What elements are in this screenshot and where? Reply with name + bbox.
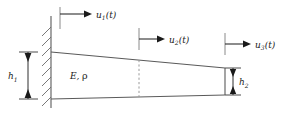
dof3-argument: (t) xyxy=(265,40,276,50)
h2-subscript: 2 xyxy=(244,82,249,89)
figure-canvas: u1(t) u2(t) u3(t) xyxy=(0,0,290,118)
h2-arrowhead-bottom xyxy=(230,86,236,94)
h1-arrowhead-bottom xyxy=(25,89,32,98)
h2-dimension: h2 xyxy=(225,68,249,95)
material-density: ρ xyxy=(82,70,88,81)
tapered-cantilever-diagram: u1(t) u2(t) u3(t) xyxy=(0,0,290,118)
fixed-support-wall xyxy=(42,16,51,108)
beam-bottom-edge xyxy=(51,95,225,99)
dof2-label: u2(t) xyxy=(169,35,190,47)
dof1-label: u1(t) xyxy=(96,10,117,22)
dof1-argument: (t) xyxy=(106,10,117,20)
h2-label: h2 xyxy=(239,77,249,89)
dof3-label: u3(t) xyxy=(255,40,276,52)
material-property-label: E,ρ xyxy=(69,70,88,81)
dof2-arrow xyxy=(139,36,165,43)
dof3-arrow xyxy=(225,41,251,48)
dof2-argument: (t) xyxy=(179,35,190,45)
dof2-group: u2(t) xyxy=(139,28,190,50)
h1-label: h1 xyxy=(8,71,18,83)
material-separator: , xyxy=(77,71,80,81)
h1-subscript: 1 xyxy=(14,76,18,83)
dof3-group: u3(t) xyxy=(225,33,276,55)
wall-hatching-icon xyxy=(42,27,51,106)
beam-top-edge xyxy=(51,52,225,68)
h1-dimension: h1 xyxy=(8,52,38,99)
h2-arrowhead-top xyxy=(230,69,236,77)
h1-arrowhead-top xyxy=(25,53,32,62)
dof1-group: u1(t) xyxy=(60,7,117,29)
dof1-arrow xyxy=(60,11,92,18)
